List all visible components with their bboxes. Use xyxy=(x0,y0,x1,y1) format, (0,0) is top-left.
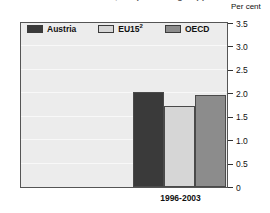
y-axis-tick xyxy=(228,23,233,24)
bar-austria xyxy=(133,92,164,187)
y-axis-tick-label: 2.0 xyxy=(236,90,248,99)
y-axis-tick-label: 2.5 xyxy=(236,66,248,75)
legend-swatch-icon xyxy=(27,25,43,33)
legend-swatch-icon xyxy=(98,25,114,33)
legend-item-oecd: OECD xyxy=(165,25,210,34)
y-axis-tick-label: 0.5 xyxy=(236,160,248,169)
chart-title-clipped: Industrial tariff rates, simple average … xyxy=(0,0,270,3)
chart-legend: AustriaEU152OECD xyxy=(27,25,209,34)
y-axis-tick-label: 0 xyxy=(236,184,241,193)
y-axis-tick xyxy=(228,93,233,94)
bar-oecd xyxy=(195,95,226,187)
plot-area xyxy=(20,22,228,188)
y-axis-tick xyxy=(228,187,233,188)
y-axis-tick xyxy=(228,164,233,165)
y-axis-tick-label: 3.5 xyxy=(236,20,248,29)
y-axis-tick-label: 1.0 xyxy=(236,137,248,146)
legend-label: EU152 xyxy=(118,25,143,34)
legend-item-eu15: EU152 xyxy=(98,25,143,34)
legend-item-austria: Austria xyxy=(27,25,76,34)
x-axis-category-label: 1996-2003 xyxy=(133,193,228,203)
bar-eu15 xyxy=(164,106,195,187)
y-axis-tick-label: 1.5 xyxy=(236,113,248,122)
y-axis-tick-label: 3.0 xyxy=(236,43,248,52)
y-axis: 00.51.01.52.02.53.03.5 xyxy=(228,22,270,188)
legend-label: OECD xyxy=(185,25,210,34)
y-axis-tick xyxy=(228,117,233,118)
legend-swatch-icon xyxy=(165,25,181,33)
legend-label: Austria xyxy=(47,25,76,34)
legend-label-superscript: 2 xyxy=(140,23,143,29)
y-axis-tick xyxy=(228,70,233,71)
y-axis-tick xyxy=(228,46,233,47)
y-axis-tick xyxy=(228,140,233,141)
bar-group xyxy=(21,23,227,187)
y-axis-unit-label: Per cent xyxy=(231,2,261,11)
